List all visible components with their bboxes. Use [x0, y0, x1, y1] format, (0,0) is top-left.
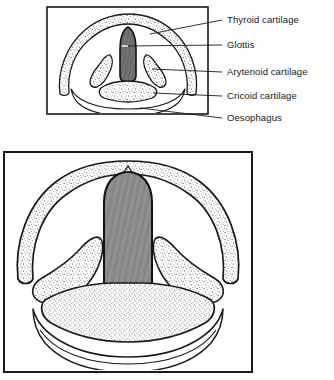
label-thyroid-cartilage: Thyroid cartilage — [227, 14, 299, 25]
label-arytenoid-cartilage: Arytenoid cartilage — [227, 66, 308, 77]
upper-panel — [47, 7, 208, 116]
glottis-lower — [104, 172, 152, 301]
glottis-upper — [120, 27, 136, 82]
label-glottis: Glottis — [227, 39, 255, 50]
label-oesophagus: Oesophagus — [227, 112, 282, 123]
lower-panel — [4, 152, 252, 372]
cricoid-cartilage-upper — [99, 81, 156, 102]
label-cricoid-cartilage: Cricoid cartilage — [227, 90, 297, 101]
larynx-cross-section-figure: Thyroid cartilage Glottis Arytenoid cart… — [0, 0, 334, 380]
figure-root: Thyroid cartilage Glottis Arytenoid cart… — [0, 0, 334, 380]
